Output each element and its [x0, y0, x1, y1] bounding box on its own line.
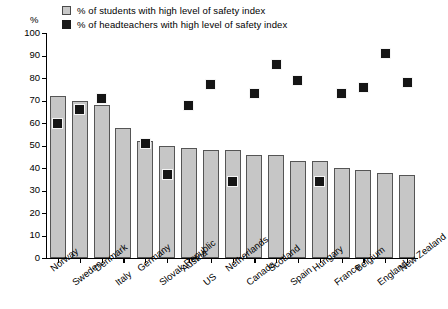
- marker-austria: [183, 100, 194, 111]
- y-axis-tick-label: 30: [29, 184, 40, 195]
- bar-netherlands: [225, 150, 241, 258]
- bar-new-zealand: [399, 175, 415, 258]
- marker-france: [336, 88, 347, 99]
- legend-item-students: % of students with high level of safety …: [62, 4, 287, 17]
- marker-netherlands: [227, 176, 238, 187]
- x-axis-tick: [167, 258, 168, 263]
- x-axis-label-italy: Italy: [113, 268, 134, 287]
- x-axis-tick: [342, 258, 343, 263]
- x-axis-tick: [123, 258, 124, 263]
- y-axis-tick-label: 100: [24, 27, 40, 38]
- bar-italy: [115, 128, 131, 259]
- y-axis-tick-label: 40: [29, 162, 40, 173]
- marker-hungary: [314, 176, 325, 187]
- bar-austria: [181, 148, 197, 258]
- y-axis-tick-label: 10: [29, 229, 40, 240]
- x-axis-tick: [298, 258, 299, 263]
- y-axis-unit-label: %: [30, 14, 38, 25]
- bar-sweden: [72, 101, 88, 259]
- y-axis-tick-label: 90: [29, 49, 40, 60]
- legend-swatch-headteachers-icon: [62, 20, 71, 29]
- legend-label-students: % of students with high level of safety …: [77, 5, 265, 16]
- marker-denmark: [96, 93, 107, 104]
- bar-scotland: [268, 155, 284, 259]
- y-axis-tick-label: 20: [29, 207, 40, 218]
- marker-canada: [249, 88, 260, 99]
- marker-scotland: [271, 59, 282, 70]
- bar-germany: [137, 141, 153, 258]
- y-axis-tick-label: 50: [29, 139, 40, 150]
- bar-slovak-republic: [159, 146, 175, 259]
- marker-spain: [292, 75, 303, 86]
- bar-belgium: [355, 170, 371, 258]
- chart-legend: % of students with high level of safety …: [62, 4, 287, 32]
- legend-swatch-students-icon: [62, 6, 71, 15]
- marker-belgium: [358, 82, 369, 93]
- x-axis-tick: [254, 258, 255, 263]
- x-axis-label-us: US: [201, 271, 218, 288]
- marker-norway: [52, 118, 63, 129]
- x-axis-tick: [385, 258, 386, 263]
- marker-us: [205, 79, 216, 90]
- bar-denmark: [94, 105, 110, 258]
- x-axis-tick: [211, 258, 212, 263]
- legend-item-headteachers: % of headteachers with high level of saf…: [62, 18, 287, 31]
- x-axis-tick: [80, 258, 81, 263]
- marker-sweden: [74, 104, 85, 115]
- y-axis-tick-label: 0: [35, 252, 40, 263]
- plot-area: [47, 33, 418, 258]
- marker-germany: [140, 138, 151, 149]
- y-axis-tick-label: 60: [29, 117, 40, 128]
- y-axis-tick-mark: [42, 258, 47, 259]
- marker-new-zealand: [402, 77, 413, 88]
- marker-slovak-republic: [162, 169, 173, 180]
- legend-label-headteachers: % of headteachers with high level of saf…: [77, 19, 287, 30]
- x-axis-label-spain: Spain: [288, 264, 314, 288]
- y-axis-tick-label: 70: [29, 94, 40, 105]
- y-axis-tick-label: 80: [29, 72, 40, 83]
- marker-england: [380, 48, 391, 59]
